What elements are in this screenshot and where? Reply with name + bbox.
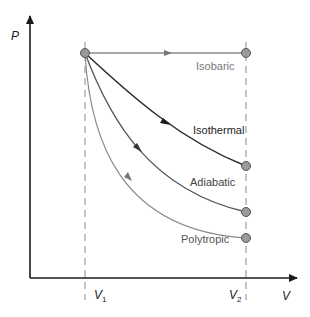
isobaric-arrow-icon [164,50,172,56]
isobaric-label: Isobaric [196,60,235,72]
x-axis-label: V [282,289,291,303]
polytropic-end-point [242,234,251,243]
y-axis-label: P [11,29,19,43]
polytropic-arrow-icon [124,172,132,181]
isobaric-end-point [242,49,251,58]
pv-diagram: P V V1 V2 Isobaric Isothermal Adiabatic … [0,0,310,317]
isothermal-end-point [242,162,251,171]
start-point [81,49,90,58]
adiabatic-end-point [242,208,251,217]
adiabatic-label: Adiabatic [190,176,236,188]
isothermal-label: Isothermal [193,124,244,136]
polytropic-label: Polytropic [181,233,230,245]
polytropic-curve [85,53,246,238]
v2-label: V2 [229,288,242,304]
v1-label: V1 [94,288,107,304]
